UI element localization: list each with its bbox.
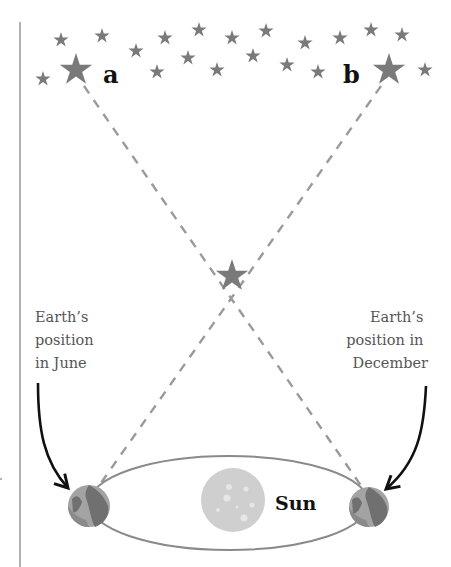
earth-june-icon	[68, 485, 110, 527]
background-star-icon	[279, 57, 294, 71]
background-star-icon	[94, 28, 109, 42]
background-star-icon	[149, 64, 164, 78]
background-star-icon	[417, 62, 432, 76]
margin-mark	[0, 478, 2, 480]
background-star-icon	[35, 71, 50, 85]
sightline-b-to-june	[96, 86, 381, 490]
background-star-icon	[53, 32, 68, 46]
earth-december-icon	[349, 487, 389, 527]
background-star-icon	[363, 22, 378, 36]
sun-icon	[201, 468, 265, 532]
background-star-icon	[245, 48, 260, 62]
background-star-icon	[209, 62, 224, 76]
background-star-icon	[157, 30, 172, 44]
star-b-icon	[373, 53, 405, 84]
background-star-icon	[191, 22, 206, 36]
background-star-icon	[224, 30, 239, 44]
star-a-icon	[60, 53, 92, 84]
background-star-icon	[297, 35, 312, 49]
background-star-icon	[180, 50, 195, 64]
december-caption: Earth’s position in December	[346, 309, 428, 371]
star-a-label: a	[103, 60, 119, 89]
background-star-icon	[128, 43, 143, 57]
background-stars	[35, 22, 432, 85]
june-caption: Earth’s position in June	[35, 309, 98, 371]
sightlines	[84, 86, 381, 490]
background-star-icon	[332, 30, 347, 44]
background-star-icon	[394, 27, 409, 41]
december-arrow	[386, 386, 426, 489]
background-star-icon	[258, 23, 273, 37]
june-arrow	[38, 383, 68, 488]
star-b-label: b	[343, 60, 360, 89]
sun-label: Sun	[275, 492, 317, 514]
background-star-icon	[310, 64, 325, 78]
parallax-diagram: a b Sun Earth’s position in June Earth’s	[0, 0, 451, 567]
